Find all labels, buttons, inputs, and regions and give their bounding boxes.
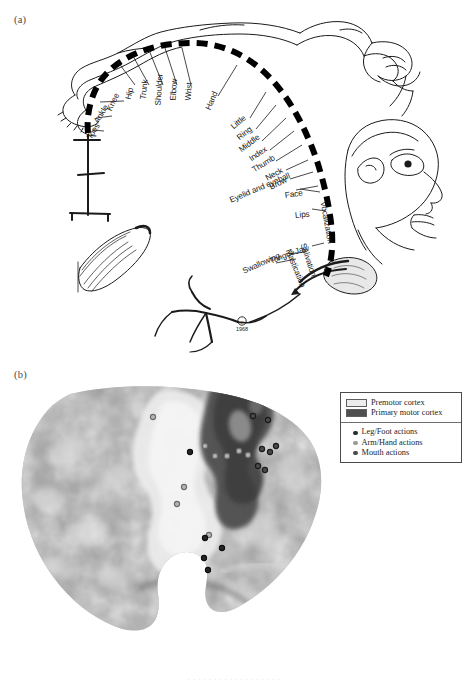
activation-point-mouth [250,413,255,418]
activation-point-arm-hand [245,452,250,457]
activation-point-mouth [255,463,260,468]
homunculus-drawing: C [0,0,468,360]
activation-point-arm-hand [202,443,207,448]
legend-row-premotor: Premotor cortex [346,399,456,408]
activation-point-arm-hand [212,453,217,458]
activation-point-leg-foot [205,567,210,572]
leg-foot-label: Leg/Foot actions [362,428,418,437]
activation-point-leg-foot [187,449,192,454]
copyright-year: 1968 [236,326,248,332]
activation-point-mouth [273,443,278,448]
activation-point-mouth [265,417,270,422]
homunculus-label-wrist: Wrist [184,82,195,101]
activation-point-leg-foot [201,555,206,560]
activation-point-arm-hand [181,484,186,489]
legend-box: Premotor cortex Primary motor cortex Leg… [340,392,462,463]
activation-point-leg-foot [202,535,207,540]
legend-points: Leg/Foot actions Arm/Hand actions Mouth … [341,423,461,462]
figure-root: (a) [0,0,468,684]
copyright-mark: C [238,317,246,325]
legend-row-mouth: Mouth actions [346,449,456,458]
activation-point-arm-hand [236,448,241,453]
legend-row-arm-hand: Arm/Hand actions [346,439,456,448]
legend-row-leg-foot: Leg/Foot actions [346,428,456,437]
activation-point-arm-hand [174,501,179,506]
primary-motor-swatch [346,409,367,417]
activation-point-arm-hand [150,414,155,419]
legend-regions: Premotor cortex Primary motor cortex [341,393,461,422]
activation-point-leg-foot [219,545,224,550]
homunculus-label-lips: Lips [295,209,310,219]
leg-foot-dot [353,431,358,436]
mouth-label: Mouth actions [362,449,410,458]
activation-point-mouth [262,467,267,472]
premotor-label: Premotor cortex [371,399,425,408]
activation-point-mouth [267,449,272,454]
mouth-dot [353,451,358,456]
arm-hand-label: Arm/Hand actions [362,439,423,448]
activation-point-mouth [259,446,264,451]
panel-a-homunculus: C ToesAnkleKneeHipTrunkShoulderElbowWris… [0,0,468,360]
legend-row-primary-motor: Primary motor cortex [346,409,456,418]
activation-point-arm-hand [224,453,229,458]
panel-b-brain: Premotor cortex Primary motor cortex Leg… [0,372,468,672]
homunculus-label-elbow: Elbow [169,78,179,100]
primary-motor-label: Primary motor cortex [371,409,442,418]
premotor-swatch [346,399,367,407]
caption-remnant: · · · · · · · · · · · · · · · · · · [0,676,468,684]
brain-surface-image [8,382,328,662]
arm-hand-dot [353,441,358,446]
